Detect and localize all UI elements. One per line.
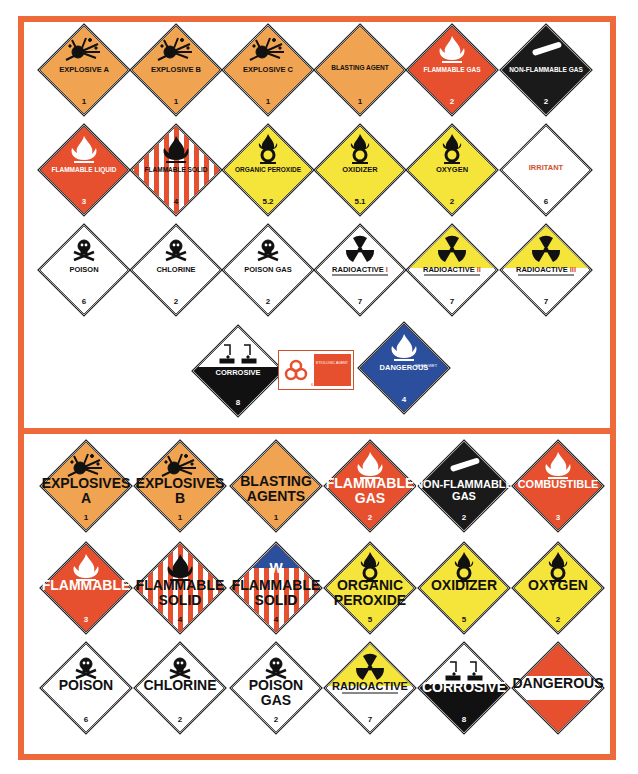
placard-flammable-solid: FLAMMABLE SOLID4 xyxy=(128,122,224,218)
svg-text:RADIOACTIVE III: RADIOACTIVE III xyxy=(516,265,576,274)
svg-text:IRRITANT: IRRITANT xyxy=(529,163,564,172)
placard-explosive-a: EXPLOSIVE A1 xyxy=(36,22,132,118)
svg-text:GAS: GAS xyxy=(261,692,291,708)
svg-text:2: 2 xyxy=(450,197,455,206)
svg-text:7: 7 xyxy=(368,715,373,724)
placard-dangerous-when-wet: DANGEROUSWHEN WET4 xyxy=(356,320,452,416)
placard-irritant: IRRITANT6 xyxy=(498,122,594,218)
svg-text:RADIOACTIVE I: RADIOACTIVE I xyxy=(332,265,388,274)
svg-text:7: 7 xyxy=(358,297,363,306)
svg-text:SOLID: SOLID xyxy=(255,592,298,608)
placard-large-poison: POISON6 xyxy=(38,640,134,736)
svg-text:7: 7 xyxy=(450,297,455,306)
placard-large-flammable-solid: WFLAMMABLESOLID4 xyxy=(228,540,324,636)
svg-text:5: 5 xyxy=(368,615,373,624)
svg-text:POISON GAS: POISON GAS xyxy=(244,265,292,274)
placard-blasting-agent: BLASTING AGENT1 xyxy=(312,22,408,118)
placard-large-dangerous: DANGEROUS xyxy=(510,640,606,736)
svg-text:NON-FLAMMABLE: NON-FLAMMABLE xyxy=(416,478,512,490)
svg-text:FLAMMABLE SOLID: FLAMMABLE SOLID xyxy=(145,166,208,173)
svg-text:1: 1 xyxy=(358,97,363,106)
svg-text:W: W xyxy=(269,560,283,576)
svg-text:2: 2 xyxy=(274,715,279,724)
placard-large-explosives-a: EXPLOSIVESA1 xyxy=(38,438,134,534)
placard-radioactive-ii: RADIOACTIVE II7 xyxy=(404,222,500,318)
placard-oxygen: OXYGEN2 xyxy=(404,122,500,218)
placard-poison: POISON6 xyxy=(36,222,132,318)
svg-text:EXPLOSIVE A: EXPLOSIVE A xyxy=(59,65,109,74)
placard-poison-gas: POISON GAS2 xyxy=(220,222,316,318)
svg-text:5.1: 5.1 xyxy=(354,197,366,206)
svg-text:2: 2 xyxy=(450,97,455,106)
svg-text:COMBUSTIBLE: COMBUSTIBLE xyxy=(518,478,599,490)
placard-organic-peroxide: ORGANIC PEROXIDE5.2 xyxy=(220,122,316,218)
svg-text:6: 6 xyxy=(82,297,87,306)
placard-explosive-c: EXPLOSIVE C1 xyxy=(220,22,316,118)
placard-radioactive-iii: RADIOACTIVE III7 xyxy=(498,222,594,318)
placard-large-flammable-solid: FLAMMABLESOLID4 xyxy=(132,540,228,636)
placard-large-blasting-agents: BLASTINGAGENTS1 xyxy=(228,438,324,534)
svg-text:BLASTING AGENT: BLASTING AGENT xyxy=(331,64,389,71)
svg-text:3: 3 xyxy=(556,513,561,522)
placard-large-explosives-b: EXPLOSIVESB1 xyxy=(132,438,228,534)
svg-text:2: 2 xyxy=(462,513,467,522)
placard-large-flammable-gas: FLAMMABLEGAS2 xyxy=(322,438,418,534)
svg-text:6: 6 xyxy=(544,197,549,206)
placard-radioactive-i: RADIOACTIVE I7 xyxy=(312,222,408,318)
svg-text:2: 2 xyxy=(266,297,271,306)
svg-text:6: 6 xyxy=(84,715,89,724)
placard-large-combustible: COMBUSTIBLE3 xyxy=(510,438,606,534)
svg-text:CHLORINE: CHLORINE xyxy=(156,265,195,274)
placard-large-oxygen: OXYGEN2 xyxy=(510,540,606,636)
placard-large-corrosive: CORROSIVE8 xyxy=(416,640,512,736)
svg-text:8: 8 xyxy=(462,715,467,724)
svg-text:5.2: 5.2 xyxy=(262,197,274,206)
placard-large-poison-gas: POISONGAS2 xyxy=(228,640,324,736)
svg-text:OXIDIZER: OXIDIZER xyxy=(342,165,378,174)
svg-text:SOLID: SOLID xyxy=(159,592,202,608)
label-etiologic-agent: ETIOLOGIC AGENT 6 xyxy=(278,350,354,390)
svg-text:CORROSIVE: CORROSIVE xyxy=(422,679,506,695)
svg-text:EXPLOSIVE B: EXPLOSIVE B xyxy=(151,65,202,74)
svg-text:8: 8 xyxy=(236,398,241,407)
cropped-caption-strip xyxy=(0,764,638,774)
svg-text:3: 3 xyxy=(84,615,89,624)
svg-text:7: 7 xyxy=(544,297,549,306)
svg-text:CHLORINE: CHLORINE xyxy=(143,677,216,693)
svg-text:1: 1 xyxy=(174,97,179,106)
placard-flammable-liquid: FLAMMABLE LIQUID3 xyxy=(36,122,132,218)
svg-text:FLAMMABLE: FLAMMABLE xyxy=(42,577,131,593)
svg-text:OXYGEN: OXYGEN xyxy=(528,577,588,593)
svg-text:OXYGEN: OXYGEN xyxy=(436,165,468,174)
placard-non-flammable-gas: NON-FLAMMABLE GAS2 xyxy=(498,22,594,118)
svg-text:DANGEROUS: DANGEROUS xyxy=(512,675,603,691)
svg-text:WHEN WET: WHEN WET xyxy=(415,363,438,368)
svg-text:5: 5 xyxy=(462,615,467,624)
svg-text:FLAMMABLE GAS: FLAMMABLE GAS xyxy=(423,66,481,73)
svg-text:1: 1 xyxy=(84,513,89,522)
svg-text:POISON: POISON xyxy=(69,265,98,274)
placard-large-oxidizer: OXIDIZER5 xyxy=(416,540,512,636)
svg-text:FLAMMABLE: FLAMMABLE xyxy=(136,577,225,593)
svg-text:RADIOACTIVE II: RADIOACTIVE II xyxy=(423,265,481,274)
svg-text:PEROXIDE: PEROXIDE xyxy=(334,592,406,608)
svg-text:GAS: GAS xyxy=(355,490,385,506)
svg-text:EXPLOSIVES: EXPLOSIVES xyxy=(136,475,225,491)
svg-text:POISON: POISON xyxy=(59,677,113,693)
svg-text:RADIOACTIVE: RADIOACTIVE xyxy=(332,680,408,692)
svg-text:FLAMMABLE: FLAMMABLE xyxy=(326,475,415,491)
svg-text:4: 4 xyxy=(174,197,179,206)
svg-text:FLAMMABLE: FLAMMABLE xyxy=(232,577,321,593)
svg-text:2: 2 xyxy=(556,615,561,624)
placard-large-chlorine: CHLORINE2 xyxy=(132,640,228,736)
svg-text:1: 1 xyxy=(82,97,87,106)
svg-text:2: 2 xyxy=(368,513,373,522)
placard-flammable-gas: FLAMMABLE GAS2 xyxy=(404,22,500,118)
svg-text:GAS: GAS xyxy=(452,490,476,502)
w-icon: W xyxy=(269,560,283,576)
svg-text:2: 2 xyxy=(178,715,183,724)
svg-text:EXPLOSIVE C: EXPLOSIVE C xyxy=(243,65,294,74)
placard-large-organic-peroxide: ORGANICPEROXIDE5 xyxy=(322,540,418,636)
placard-large-radioactive: RADIOACTIVE7 xyxy=(322,640,418,736)
svg-text:3: 3 xyxy=(82,197,87,206)
